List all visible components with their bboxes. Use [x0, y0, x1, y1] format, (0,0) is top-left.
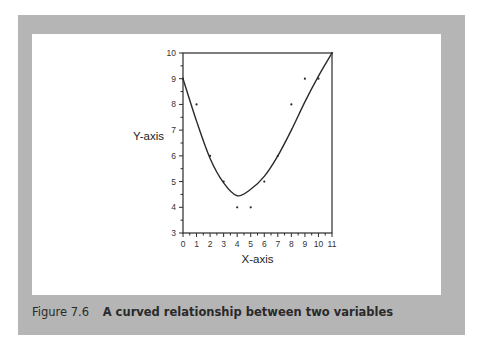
x-axis-label: X-axis [242, 253, 274, 265]
data-point [290, 103, 292, 105]
x-tick-label: 2 [208, 239, 213, 249]
data-point [209, 155, 211, 157]
y-tick-label: 9 [171, 74, 176, 84]
x-tick-label: 4 [235, 239, 240, 249]
figure-caption: Figure 7.6 A curved relationship between… [32, 305, 393, 319]
plot-area: 01234567891011345678910X-axisY-axis [32, 34, 441, 295]
plot-frame [183, 53, 332, 233]
fitted-curve [183, 53, 332, 196]
y-tick-label: 10 [167, 48, 177, 58]
x-tick-label: 8 [289, 239, 294, 249]
y-tick-label: 6 [171, 151, 176, 161]
y-axis-label: Y-axis [133, 130, 164, 142]
data-point [304, 78, 306, 80]
x-tick-label: 11 [328, 239, 337, 249]
data-point [236, 206, 238, 208]
data-point [277, 155, 279, 157]
data-point [195, 103, 197, 105]
data-point [250, 206, 252, 208]
x-tick-label: 5 [248, 239, 253, 249]
y-tick-label: 3 [171, 228, 176, 238]
figure-title: A curved relationship between two variab… [103, 305, 393, 319]
data-point [317, 78, 319, 80]
y-tick-label: 7 [171, 125, 176, 135]
y-tick-label: 4 [171, 202, 176, 212]
figure-panel: 01234567891011345678910X-axisY-axis Figu… [18, 15, 465, 335]
x-tick-label: 9 [303, 239, 308, 249]
x-tick-label: 1 [194, 239, 199, 249]
data-point [223, 180, 225, 182]
data-point [182, 78, 184, 80]
x-tick-label: 6 [262, 239, 267, 249]
x-tick-label: 7 [275, 239, 280, 249]
scatter-chart: 01234567891011345678910X-axisY-axis [32, 34, 441, 295]
y-tick-label: 8 [171, 99, 176, 109]
y-tick-label: 5 [171, 177, 176, 187]
figure-number: Figure 7.6 [32, 305, 89, 319]
data-point [331, 52, 333, 54]
x-tick-label: 3 [221, 239, 226, 249]
x-tick-label: 10 [314, 239, 324, 249]
data-point [263, 180, 265, 182]
x-tick-label: 0 [181, 239, 186, 249]
